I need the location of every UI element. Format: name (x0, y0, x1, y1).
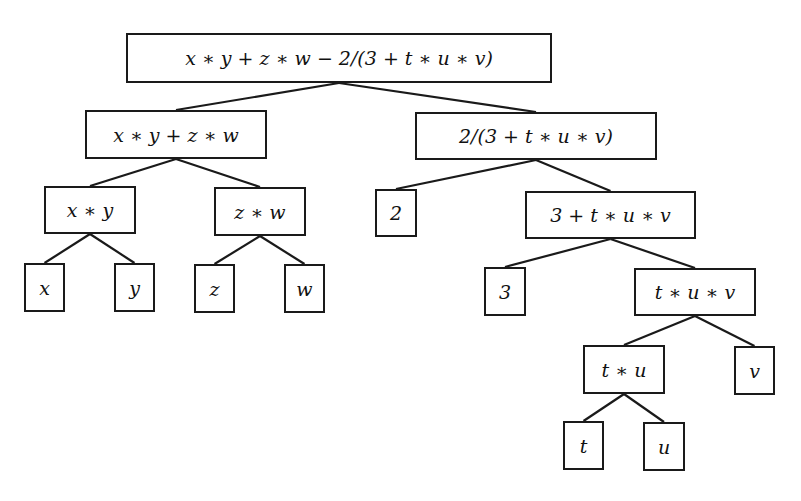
tree-node-n2: 2/(3 + t ∗ u ∗ v) (415, 112, 657, 160)
edge-n4-n10 (260, 236, 305, 264)
node-label: 2/(3 + t ∗ u ∗ v) (459, 125, 613, 147)
tree-node-n14: v (734, 346, 775, 395)
edge-n4-n9 (215, 236, 261, 264)
tree-node-n1: x ∗ y + z ∗ w (85, 110, 267, 159)
edge-n2-n6 (536, 160, 611, 191)
node-label: w (296, 278, 312, 300)
edge-n12-n13 (624, 316, 695, 345)
node-label: x ∗ y + z ∗ w (113, 124, 239, 146)
node-label: 3 (499, 281, 511, 303)
tree-node-n10: w (284, 264, 325, 313)
node-label: t ∗ u (602, 359, 647, 381)
tree-node-n15: t (563, 421, 604, 470)
node-label: x (39, 277, 50, 299)
tree-node-n9: z (194, 264, 235, 313)
edge-n3-n8 (90, 234, 135, 263)
node-label: x ∗ y + z ∗ w − 2/(3 + t ∗ u ∗ v) (185, 47, 493, 69)
tree-node-n3: x ∗ y (44, 186, 136, 234)
tree-node-n7: x (24, 263, 65, 312)
edge-n1-n3 (90, 159, 176, 186)
tree-node-n6: 3 + t ∗ u ∗ v (525, 191, 696, 239)
node-label: u (658, 436, 670, 458)
edge-n6-n11 (505, 239, 611, 267)
edge-n13-n16 (624, 394, 664, 422)
tree-node-n13: t ∗ u (583, 345, 665, 394)
edge-n2-n5 (396, 160, 536, 189)
tree-node-n5: 2 (375, 189, 417, 237)
tree-node-n4: z ∗ w (214, 187, 306, 236)
node-label: t (580, 435, 588, 457)
edge-n1-n4 (176, 159, 260, 187)
expression-tree-diagram: x ∗ y + z ∗ w − 2/(3 + t ∗ u ∗ v)x ∗ y +… (0, 0, 801, 501)
node-label: t ∗ u ∗ v (655, 281, 736, 303)
tree-node-n11: 3 (484, 267, 526, 316)
node-label: v (749, 360, 760, 382)
node-label: y (129, 277, 140, 299)
edge-n13-n15 (584, 394, 625, 421)
tree-node-root: x ∗ y + z ∗ w − 2/(3 + t ∗ u ∗ v) (126, 33, 552, 83)
tree-node-n16: u (643, 422, 685, 471)
node-label: x ∗ y (67, 199, 113, 221)
edge-n12-n14 (695, 316, 755, 346)
tree-node-n8: y (114, 263, 155, 312)
node-label: 3 + t ∗ u ∗ v (550, 204, 671, 226)
edge-n6-n12 (611, 239, 696, 268)
node-label: z ∗ w (234, 201, 285, 223)
node-label: z (209, 278, 219, 300)
edge-n3-n7 (45, 234, 91, 263)
edge-root-n2 (339, 83, 536, 112)
tree-node-n12: t ∗ u ∗ v (634, 268, 756, 316)
edge-root-n1 (176, 83, 339, 110)
node-label: 2 (390, 202, 402, 224)
